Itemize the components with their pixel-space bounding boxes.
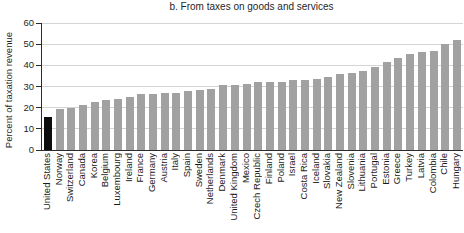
x-tick-label: Netherlands [205, 153, 215, 204]
bar-slot [276, 23, 288, 150]
bar-united-kingdom [231, 85, 239, 150]
bar-slot [100, 23, 112, 150]
x-tick-label: United Kingdom [229, 153, 239, 221]
x-tick-label: Canada [77, 153, 87, 186]
bar-slot [416, 23, 428, 150]
y-tick-mark [36, 86, 42, 87]
x-tick-label: United States [42, 153, 52, 210]
bar-united-states [44, 117, 52, 150]
bar-france [137, 94, 145, 150]
x-label-cell: Luxembourg [111, 153, 123, 233]
x-tick-label: Hungary [451, 153, 461, 189]
x-tick-label: Latvia [416, 153, 426, 178]
x-tick-label: Colombia [428, 153, 438, 193]
y-tick-label: 30 [12, 81, 34, 93]
x-tick-label: Finland [264, 153, 274, 184]
figure: b. From taxes on goods and services Perc… [0, 0, 464, 233]
bar-slot [171, 23, 183, 150]
bar-new-zealand [336, 74, 344, 150]
y-tick-label: 10 [12, 123, 34, 135]
x-tick-label: New Zealand [334, 153, 344, 209]
x-label-cell: Hungary [450, 153, 462, 233]
x-tick-label: Turkey [404, 153, 414, 182]
bar-italy [172, 93, 180, 150]
bar-israel [289, 80, 297, 150]
x-tick-label: Italy [170, 153, 180, 170]
y-tick-mark [36, 150, 42, 151]
bar-canada [79, 105, 87, 151]
x-tick-label: Luxembourg [112, 153, 122, 206]
bar-slot [358, 23, 370, 150]
x-label-cell: New Zealand [333, 153, 345, 233]
bar-slot [229, 23, 241, 150]
x-axis-labels: United StatesNorwaySwitzerlandCanadaKore… [41, 153, 462, 233]
x-label-cell: Greece [392, 153, 404, 233]
bar-greece [394, 58, 402, 150]
x-tick-label: Czech Republic [252, 153, 262, 220]
bar-slovakia [324, 77, 332, 150]
x-tick-label: Norway [54, 153, 64, 185]
bar-costa-rica [301, 80, 309, 150]
bar-germany [149, 94, 157, 150]
x-label-cell: Israel [286, 153, 298, 233]
x-tick-label: Sweden [194, 153, 204, 187]
x-tick-label: Spain [182, 153, 192, 177]
bar-belgium [102, 100, 110, 150]
bar-slot [264, 23, 276, 150]
bar-slot [65, 23, 77, 150]
x-label-cell: Germany [146, 153, 158, 233]
x-tick-label: Slovakia [322, 153, 332, 189]
x-tick-label: Denmark [217, 153, 227, 192]
bar-slot [451, 23, 463, 150]
x-tick-label: Poland [276, 153, 286, 183]
y-tick-mark [36, 107, 42, 108]
x-label-cell: Ireland [123, 153, 135, 233]
x-label-cell: Sweden [193, 153, 205, 233]
x-label-cell: Turkey [403, 153, 415, 233]
bar-slot [194, 23, 206, 150]
bar-chile [441, 44, 449, 150]
bar-slot [159, 23, 171, 150]
bar-slovenia [348, 73, 356, 150]
x-tick-label: France [135, 153, 145, 183]
bar-slot [381, 23, 393, 150]
y-tick-mark [36, 128, 42, 129]
x-label-cell: United States [41, 153, 53, 233]
bar-slot [206, 23, 218, 150]
bar-slot [54, 23, 66, 150]
bar-slot [439, 23, 451, 150]
x-label-cell: Denmark [216, 153, 228, 233]
bar-slot [404, 23, 416, 150]
x-tick-label: Estonia [381, 153, 391, 185]
y-tick-mark [36, 65, 42, 66]
bar-denmark [219, 85, 227, 150]
bar-luxembourg [114, 99, 122, 150]
bar-slot [299, 23, 311, 150]
bar-slot [323, 23, 335, 150]
bar-slot [346, 23, 358, 150]
bar-slot [217, 23, 229, 150]
y-tick-label: 60 [12, 17, 34, 29]
x-tick-label: Slovenia [346, 153, 356, 189]
x-label-cell: United Kingdom [228, 153, 240, 233]
x-label-cell: France [135, 153, 147, 233]
x-label-cell: Czech Republic [251, 153, 263, 233]
x-label-cell: Slovakia [322, 153, 334, 233]
bar-slot [334, 23, 346, 150]
x-tick-label: Germany [147, 153, 157, 192]
bar-slot [393, 23, 405, 150]
bar-slot [77, 23, 89, 150]
x-label-cell: Costa Rica [298, 153, 310, 233]
y-tick-label: 20 [12, 102, 34, 114]
x-label-cell: Iceland [310, 153, 322, 233]
bar-estonia [383, 62, 391, 150]
x-tick-label: Portugal [369, 153, 379, 188]
bar-sweden [196, 90, 204, 150]
x-tick-label: Switzerland [65, 153, 75, 202]
bar-korea [91, 102, 99, 150]
bar-slot [89, 23, 101, 150]
x-tick-label: Chile [439, 153, 449, 175]
y-tick-mark [36, 23, 42, 24]
bar-czech-republic [254, 82, 262, 150]
bar-slot [252, 23, 264, 150]
